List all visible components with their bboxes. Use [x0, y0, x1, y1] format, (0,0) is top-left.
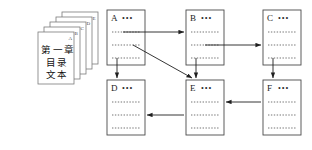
node-B-label: B	[190, 13, 196, 23]
stack-title-line-2: 目录	[46, 57, 69, 68]
stack-title-line-3: 文本	[46, 69, 69, 80]
node-C-label: C	[267, 13, 273, 23]
stack-title-line-1: 第一章	[41, 44, 76, 55]
node-F[interactable]: F •••	[263, 80, 301, 135]
node-A-ellipsis: •••	[122, 14, 133, 23]
node-A[interactable]: A •••	[107, 10, 145, 65]
diagram-canvas: E D C B A 第一章 目录 文本 A ••• B ••• C •••	[0, 0, 312, 150]
node-E-label: E	[190, 83, 196, 93]
node-C-ellipsis: •••	[278, 14, 289, 23]
document-stack: E D C B A 第一章 目录 文本	[38, 12, 98, 84]
node-E[interactable]: E •••	[186, 80, 224, 135]
node-A-label: A	[111, 13, 118, 23]
node-C[interactable]: C •••	[263, 10, 301, 65]
node-D[interactable]: D •••	[107, 80, 145, 135]
node-E-ellipsis: •••	[201, 84, 212, 93]
node-D-ellipsis: •••	[122, 84, 133, 93]
stack-page-label-D: D	[87, 21, 91, 26]
node-D-label: D	[111, 83, 118, 93]
node-F-label: F	[267, 83, 272, 93]
stack-page-label-A: A	[69, 36, 73, 41]
stack-page-label-E: E	[93, 16, 96, 21]
node-B-ellipsis: •••	[201, 14, 212, 23]
node-B[interactable]: B •••	[186, 10, 224, 65]
node-F-ellipsis: •••	[278, 84, 289, 93]
